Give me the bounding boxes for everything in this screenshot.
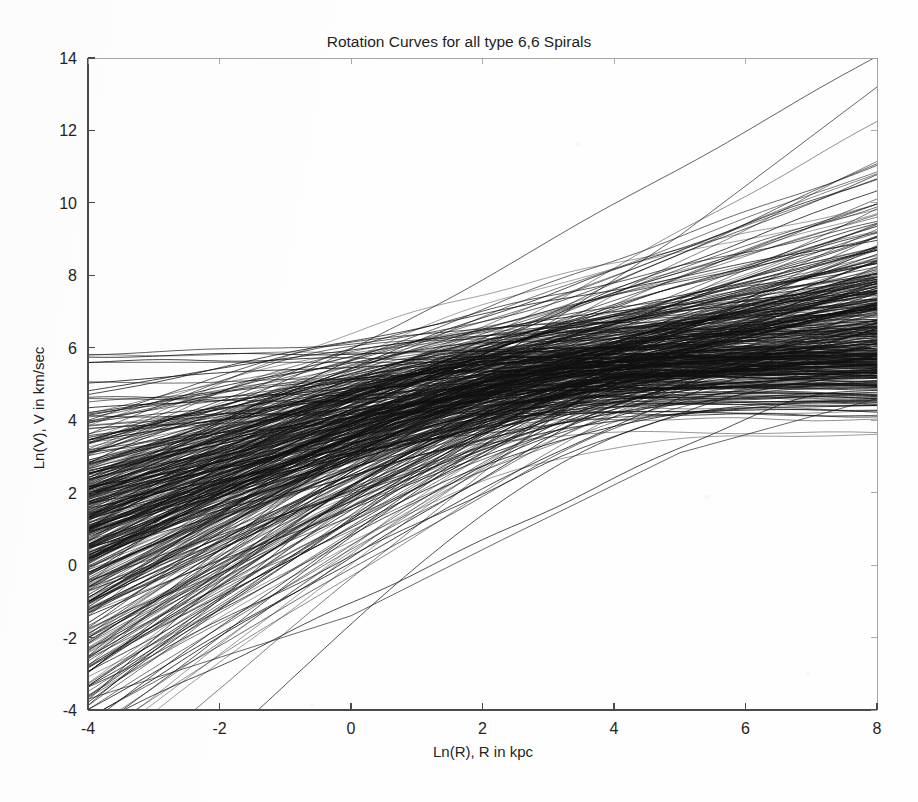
y-axis-tick-labels: -4-202468101214	[59, 50, 77, 719]
x-tick-label: -2	[212, 720, 226, 737]
curve-family	[88, 57, 877, 754]
x-tick-label: 0	[347, 720, 356, 737]
y-tick-label: 2	[68, 485, 77, 502]
x-tick-label: 8	[873, 720, 882, 737]
x-axis-tick-labels: -4-202468	[81, 720, 882, 737]
y-tick-label: 4	[68, 412, 77, 429]
rotation-curves-plot: Rotation Curves for all type 6,6 Spirals…	[0, 0, 918, 802]
y-tick-label: 0	[68, 557, 77, 574]
figure-canvas: Rotation Curves for all type 6,6 Spirals…	[0, 0, 918, 802]
x-tick-label: -4	[81, 720, 95, 737]
y-axis-label: Ln(V), V in km/sec	[30, 346, 47, 469]
page-title: Rotation Curves for all type 6,6 Spirals	[327, 33, 592, 50]
y-tick-label: -4	[63, 702, 77, 719]
x-tick-label: 2	[478, 720, 487, 737]
y-tick-label: 10	[59, 195, 77, 212]
y-tick-label: -2	[63, 630, 77, 647]
x-tick-label: 4	[610, 720, 619, 737]
y-tick-label: 6	[68, 340, 77, 357]
x-tick-label: 6	[741, 720, 750, 737]
y-tick-label: 14	[59, 50, 77, 67]
y-tick-label: 12	[59, 122, 77, 139]
x-axis-label: Ln(R), R in kpc	[433, 743, 534, 760]
y-tick-label: 8	[68, 267, 77, 284]
